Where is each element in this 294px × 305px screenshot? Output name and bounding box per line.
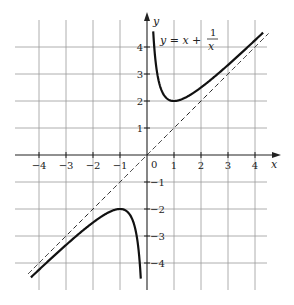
y-tick-label: 2 xyxy=(137,96,143,107)
y-tick-label: −4 xyxy=(150,258,165,269)
y-tick-label: 1 xyxy=(137,123,143,134)
y-axis-label: y xyxy=(152,15,160,28)
x-tick-label: −1 xyxy=(113,160,128,171)
x-tick-label: −4 xyxy=(32,160,47,171)
y-tick-label: −3 xyxy=(150,231,165,242)
x-tick-label: −3 xyxy=(59,160,74,171)
y-tick-label: 3 xyxy=(137,69,143,80)
origin-label: 0 xyxy=(151,159,157,170)
x-tick-label: 1 xyxy=(171,160,177,171)
y-tick-label: 4 xyxy=(137,42,143,53)
function-label: y = x + 1 x xyxy=(159,27,218,53)
y-axis-arrow xyxy=(144,12,150,21)
y-tick-label: −1 xyxy=(150,177,165,188)
curve-branch-negative xyxy=(31,209,141,279)
y-tick-label: −2 xyxy=(150,204,165,215)
function-label-numerator: 1 xyxy=(210,27,216,38)
x-tick-label: 2 xyxy=(198,160,204,171)
x-tick-label: −2 xyxy=(86,160,101,171)
x-tick-label: 3 xyxy=(225,160,231,171)
asymptote-line xyxy=(28,34,268,274)
function-label-lhs: y = x + xyxy=(159,34,201,47)
chart: −4−3−2−11234−4−3−2−11234 x y 0 y = x + 1… xyxy=(0,0,294,305)
x-tick-label: 4 xyxy=(252,160,258,171)
function-label-denominator: x xyxy=(208,40,215,53)
x-axis-label: x xyxy=(271,158,278,171)
